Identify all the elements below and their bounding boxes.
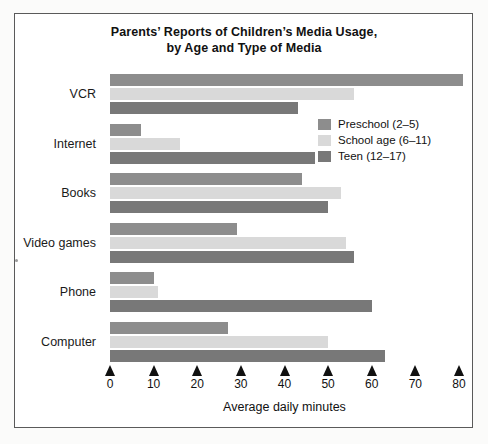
legend-swatch-school-age-icon xyxy=(318,135,331,146)
x-axis-tick-10 xyxy=(149,365,159,376)
legend-item-teen: Teen (12–17) xyxy=(318,148,431,164)
legend-label-preschool: Preschool (2–5) xyxy=(338,118,419,130)
bar-internet-preschool xyxy=(110,124,141,136)
bar-computer-preschool xyxy=(110,322,228,334)
legend-swatch-preschool-icon xyxy=(318,119,331,130)
x-axis-title: Average daily minutes xyxy=(110,400,459,414)
bar-vcr-preschool xyxy=(110,74,463,86)
x-axis-tick-label-60: 60 xyxy=(352,377,392,391)
figure-canvas: Parents’ Reports of Children’s Media Usa… xyxy=(0,0,488,444)
x-axis-tick-label-40: 40 xyxy=(265,377,305,391)
legend-item-preschool: Preschool (2–5) xyxy=(318,116,431,132)
category-label-computer: Computer xyxy=(0,335,96,349)
x-axis-tick-50 xyxy=(323,365,333,376)
x-axis-tick-30 xyxy=(236,365,246,376)
chart-legend: Preschool (2–5) School age (6–11) Teen (… xyxy=(318,116,431,164)
x-axis-tick-label-50: 50 xyxy=(308,377,348,391)
category-label-books: Books xyxy=(0,186,96,200)
legend-item-school-age: School age (6–11) xyxy=(318,132,431,148)
x-axis-tick-70 xyxy=(410,365,420,376)
bar-books-teen xyxy=(110,201,328,213)
bar-internet-teen xyxy=(110,152,315,164)
x-axis-tick-60 xyxy=(367,365,377,376)
bar-phone-schoolage xyxy=(110,286,158,298)
bar-computer-schoolage xyxy=(110,336,328,348)
x-axis-tick-label-20: 20 xyxy=(177,377,217,391)
bar-video-games-teen xyxy=(110,251,354,263)
category-label-phone: Phone xyxy=(0,285,96,299)
bar-vcr-teen xyxy=(110,102,298,114)
bar-books-schoolage xyxy=(110,187,341,199)
bar-vcr-schoolage xyxy=(110,88,354,100)
x-axis-tick-label-70: 70 xyxy=(395,377,435,391)
bar-books-preschool xyxy=(110,173,302,185)
bar-computer-teen xyxy=(110,350,385,362)
x-axis-tick-label-0: 0 xyxy=(90,377,130,391)
legend-label-teen: Teen (12–17) xyxy=(338,150,406,162)
x-axis-tick-0 xyxy=(105,365,115,376)
category-label-vcr: VCR xyxy=(0,87,96,101)
x-axis-tick-80 xyxy=(454,365,464,376)
page-speck xyxy=(15,259,18,262)
bar-internet-schoolage xyxy=(110,138,180,150)
bar-video-games-schoolage xyxy=(110,237,346,249)
x-axis-tick-label-30: 30 xyxy=(221,377,261,391)
category-label-internet: Internet xyxy=(0,137,96,151)
legend-label-school-age: School age (6–11) xyxy=(338,134,431,146)
bar-phone-teen xyxy=(110,300,372,312)
x-axis-tick-20 xyxy=(192,365,202,376)
legend-swatch-teen-icon xyxy=(318,151,331,162)
plot-area: VCRInternetBooksVideo gamesPhoneComputer… xyxy=(0,0,488,444)
x-axis-tick-label-10: 10 xyxy=(134,377,174,391)
x-axis-tick-label-80: 80 xyxy=(439,377,479,391)
x-axis-tick-40 xyxy=(280,365,290,376)
category-label-video-games: Video games xyxy=(0,236,96,250)
bar-video-games-preschool xyxy=(110,223,237,235)
bar-phone-preschool xyxy=(110,272,154,284)
